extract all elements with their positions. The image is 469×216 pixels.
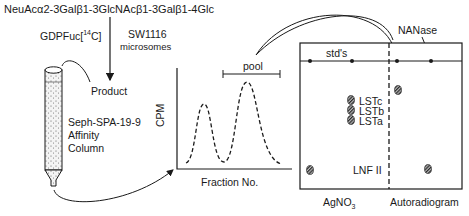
elution-curve [186, 82, 282, 164]
donor-label: GDPFuc[14C] [40, 29, 101, 41]
plot-y-label: CPM [155, 104, 166, 127]
product-label: Product [91, 86, 127, 97]
agno3-subscript: 3 [352, 203, 356, 210]
donor-tail: C] [91, 30, 102, 42]
spot-label-lnf2: LNF II [353, 165, 382, 176]
plot-axes [177, 68, 292, 169]
column-label-line2: Affinity [68, 130, 99, 141]
enzyme-source-line2: microsomes [120, 42, 171, 52]
spot-label-lsta: LSTa [359, 116, 383, 127]
column-label-line1: Seph-SPA-19-9 [68, 117, 141, 128]
column-to-plot-arrow [54, 170, 173, 202]
nanase-label: NANase [398, 25, 437, 36]
autoradiogram-label: Autoradiogram [390, 197, 459, 208]
standards-label: std's [326, 48, 347, 59]
enzyme-source-line1: SW1116 [128, 29, 167, 40]
plot-x-label: Fraction No. [201, 177, 258, 188]
donor-base: GDPFuc[ [40, 30, 83, 42]
affinity-column-icon [45, 67, 62, 186]
product-to-column-connector [62, 61, 90, 82]
donor-isotope: 14 [83, 29, 91, 36]
substrate-label: NeuAcα2-3Galβ1-3GlcNAcβ1-3Galβ1-4Glc [4, 4, 214, 15]
pool-label: pool [243, 61, 263, 72]
agno3-base: AgNO [323, 196, 352, 208]
column-label-line3: Column [68, 143, 104, 154]
agno3-label: AgNO3 [323, 197, 356, 210]
